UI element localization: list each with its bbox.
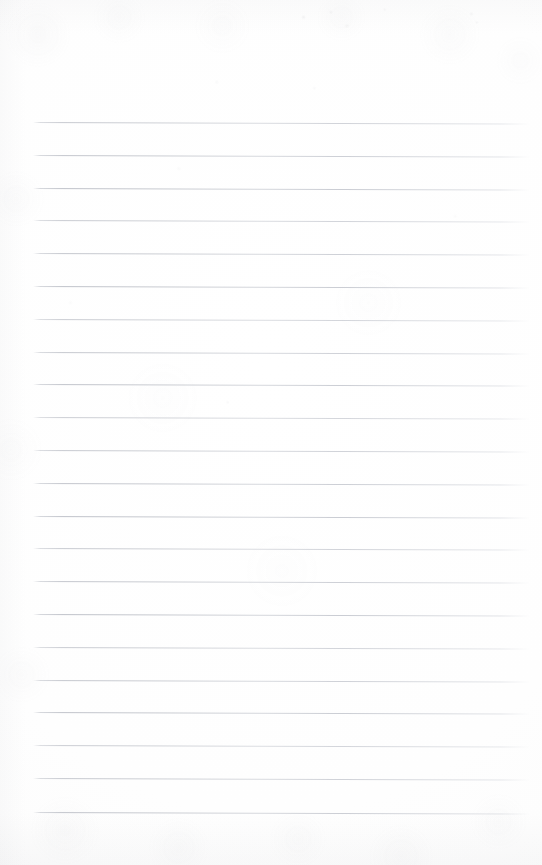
scanned-page	[0, 0, 542, 865]
paper-background	[0, 0, 542, 865]
